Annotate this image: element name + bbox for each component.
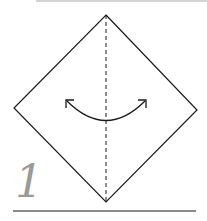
step-number: 1: [15, 160, 43, 204]
bottom-rule: [13, 210, 196, 212]
